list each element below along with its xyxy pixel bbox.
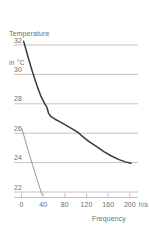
x-tick-label: 40	[39, 201, 47, 208]
gridlines-group	[14, 45, 138, 192]
x-tick-label: 80	[61, 201, 69, 208]
y-tick-label: 26	[14, 125, 22, 132]
series-line-main-curve	[24, 41, 131, 163]
y-tick-label: 22	[14, 184, 22, 191]
y-axis-tick-labels: 323028262422	[14, 37, 22, 191]
data-series-group	[22, 41, 131, 195]
temperature-frequency-chart: Temperature in °C Frequency 323028262422…	[0, 0, 149, 235]
plot-area: 323028262422 04080120160200 h/a	[0, 0, 149, 235]
y-tick-label: 28	[14, 95, 22, 102]
x-tick-label: 200	[124, 201, 136, 208]
y-tick-label: 24	[14, 154, 22, 161]
x-tick-label: 120	[81, 201, 93, 208]
x-axis-line-and-ticks	[14, 193, 138, 198]
x-axis-tick-labels: 04080120160200	[20, 201, 136, 208]
x-tick-label: 160	[102, 201, 114, 208]
series-line-secondary-curve	[22, 129, 42, 195]
y-tick-label: 32	[14, 37, 22, 44]
x-tick-label: 0	[20, 201, 24, 208]
x-axis-unit-label: h/a	[139, 201, 148, 208]
y-tick-label: 30	[14, 66, 22, 73]
